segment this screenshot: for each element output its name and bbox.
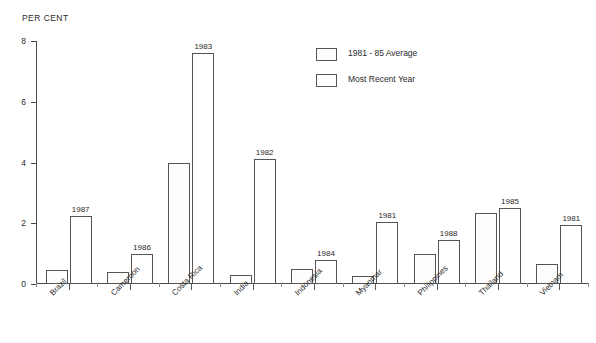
bar-year-label: 1986	[127, 243, 157, 252]
x-tick	[437, 283, 438, 290]
y-tick-label-0: 0	[6, 279, 26, 289]
bar-group: 1982	[230, 41, 276, 284]
bar-year-label: 1982	[250, 148, 280, 157]
bar-group: 1987	[46, 41, 92, 284]
bar-group: 1985	[475, 41, 521, 284]
bar-year-label: 1981	[556, 214, 586, 223]
bar-year-label: 1983	[188, 42, 218, 51]
bar-group: 1983	[168, 41, 214, 284]
bar-year-label: 1988	[434, 229, 464, 238]
x-tick	[130, 283, 131, 290]
legend-swatch-dotted-icon	[316, 48, 337, 61]
bar-recent-year[interactable]	[254, 159, 276, 284]
plot-area: 198719861983198219841981198819851981	[36, 41, 588, 284]
y-tick-label-8: 8	[6, 36, 26, 46]
bar-group: 1988	[414, 41, 460, 284]
bar-group: 1986	[107, 41, 153, 284]
legend-label-average: 1981 - 85 Average	[348, 48, 417, 58]
legend-label-recent: Most Recent Year	[348, 74, 415, 84]
bar-recent-year[interactable]	[70, 216, 92, 284]
x-tick	[498, 283, 499, 290]
bar-year-label: 1987	[66, 205, 96, 214]
x-tick	[375, 283, 376, 290]
x-tick	[559, 283, 560, 290]
legend-swatch-white-icon	[316, 74, 337, 87]
x-tick	[69, 283, 70, 290]
bar-year-label: 1984	[311, 249, 341, 258]
y-tick-label-6: 6	[6, 97, 26, 107]
bar-year-label: 1985	[495, 197, 525, 206]
x-tick	[253, 283, 254, 290]
x-tick-minor	[588, 283, 589, 287]
y-tick-label-4: 4	[6, 158, 26, 168]
bar-year-label: 1981	[372, 211, 402, 220]
x-tick	[191, 283, 192, 290]
x-tick	[314, 283, 315, 290]
bar-recent-year[interactable]	[192, 53, 214, 284]
bar-average[interactable]	[168, 163, 190, 285]
y-tick-label-2: 2	[6, 218, 26, 228]
bar-group: 1981	[536, 41, 582, 284]
y-axis-title: PER CENT	[22, 13, 69, 23]
chart-canvas: PER CENT 02468 1987198619831982198419811…	[0, 0, 596, 343]
